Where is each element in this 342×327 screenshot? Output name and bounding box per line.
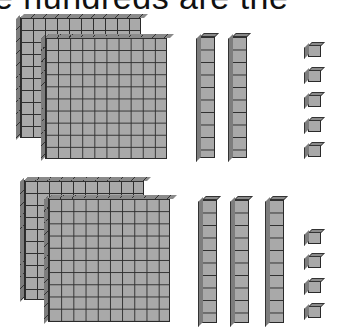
hundreds-flat (48, 198, 170, 322)
ones-unit (308, 120, 321, 132)
tens-rod (200, 36, 215, 158)
tens-rod (232, 36, 247, 158)
ones-unit (308, 281, 321, 293)
tens-rod (269, 199, 284, 323)
ones-unit (308, 232, 321, 244)
tens-rod (234, 199, 249, 323)
ones-unit (308, 306, 321, 318)
ones-unit (308, 70, 321, 82)
ones-unit (308, 95, 321, 107)
ones-unit (308, 45, 321, 57)
tens-rod (202, 199, 217, 323)
hundreds-flat (45, 37, 167, 159)
ones-unit (308, 145, 321, 157)
ones-unit (308, 256, 321, 268)
